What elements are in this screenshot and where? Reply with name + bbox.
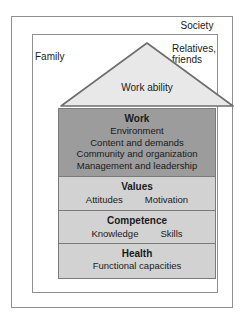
floor-work-line-2: Content and demands [61,137,213,149]
floor-values-title: Values [61,180,213,193]
work-ability-label: Work ability [59,82,235,94]
society-boundary-box: Family Relatives, friends Work ability W… [32,34,218,293]
roof-triangle [59,41,235,108]
roof-triangle-shape [59,41,235,108]
floor-work-line-4: Management and leadership [61,160,213,172]
floor-competence-title: Competence [61,214,213,227]
floor-work-line-1: Environment [61,125,213,137]
floor-competence-item-2: Skills [160,228,182,240]
floor-health-line-1: Functional capacities [61,260,213,272]
floor-competence-item-1: Knowledge [91,228,138,240]
floor-values: Values Attitudes Motivation [59,177,215,211]
floor-competence-items: Knowledge Skills [61,227,213,240]
house-body: Work Environment Content and demands Com… [58,108,216,279]
floor-work-line-3: Community and organization [61,148,213,160]
floor-values-item-2: Motivation [145,194,188,206]
floor-work: Work Environment Content and demands Com… [59,109,215,177]
floor-competence: Competence Knowledge Skills [59,211,215,245]
floor-health-title: Health [61,247,213,260]
society-label: Society [167,20,227,32]
floor-work-title: Work [61,112,213,125]
floor-values-item-1: Attitudes [86,194,123,206]
floor-values-items: Attitudes Motivation [61,193,213,206]
work-ability-house-figure: Society Family Relatives, friends Work a… [11,16,233,308]
floor-health: Health Functional capacities [59,244,215,278]
